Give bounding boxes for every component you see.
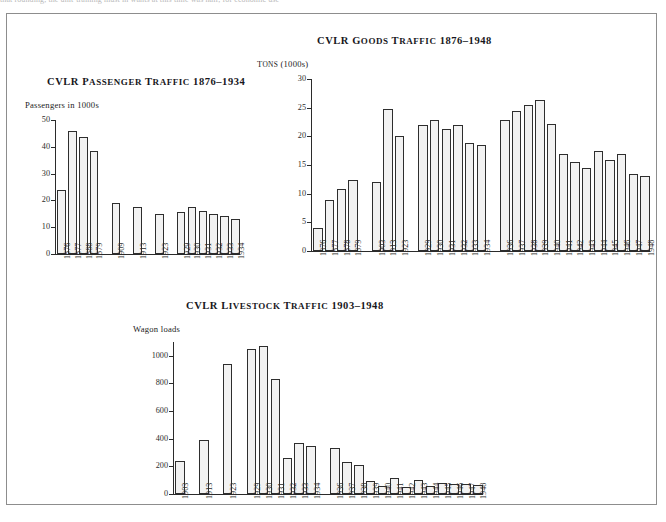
goods-y-tick-label: 30 — [298, 75, 306, 83]
bar — [453, 125, 462, 251]
livestock-title-word: TRAFFIC — [283, 300, 328, 311]
passenger-title-word: TRAFFIC — [145, 76, 190, 87]
passenger-x-tick-label: 1929 — [184, 243, 192, 259]
goods-y-tick — [307, 251, 311, 252]
goods-x-tick-label: 1931 — [449, 240, 457, 256]
passenger-plot-area: 0102030405018761877188818791909191319231… — [55, 120, 240, 254]
livestock-x-tick-label: 1936 — [337, 483, 345, 499]
bar — [465, 143, 474, 251]
passenger-x-tick-label: 1934 — [238, 243, 246, 259]
bar — [395, 136, 404, 251]
goods-y-tick — [307, 222, 311, 223]
goods-title-word: CVLR — [317, 35, 349, 46]
passenger-x-tick-label: 1931 — [205, 243, 213, 259]
bar — [477, 145, 486, 251]
livestock-y-tick — [169, 356, 173, 357]
bar — [223, 364, 233, 494]
bar — [605, 160, 614, 251]
livestock-y-tick-label: 0 — [164, 490, 168, 498]
passenger-y-tick-label: 10 — [42, 223, 50, 231]
passenger-y-tick-label: 0 — [46, 250, 50, 258]
goods-x-tick-label: 1940 — [554, 240, 562, 256]
livestock-x-tick-label: 1933 — [302, 483, 310, 499]
passenger-x-tick-label: 1877 — [75, 243, 83, 259]
bar — [79, 137, 88, 254]
passenger-x-tick-label: 1888 — [86, 243, 94, 259]
bar — [570, 162, 579, 251]
goods-x-tick-label: 1929 — [425, 240, 433, 256]
goods-x-tick-label: 1876 — [320, 240, 328, 256]
livestock-x-tick-label: 1934 — [314, 483, 322, 499]
clipped-running-text: that rounding, the unit-training must in… — [0, 0, 666, 9]
livestock-x-tick-label: 1947 — [469, 483, 477, 499]
goods-y-tick — [307, 79, 311, 80]
bar — [524, 105, 533, 251]
passenger-x-tick-label: 1913 — [140, 243, 148, 259]
bar — [617, 154, 626, 251]
livestock-y-tick-label: 400 — [156, 435, 168, 443]
livestock-y-tick-label: 200 — [156, 462, 168, 470]
passenger-y-tick — [51, 254, 55, 255]
livestock-x-tick-label: 1939 — [373, 483, 381, 499]
goods-x-tick-label: 1930 — [437, 240, 445, 256]
passenger-y-tick-label: 20 — [42, 196, 50, 204]
goods-x-tick-label: 1877 — [332, 240, 340, 256]
passenger-title-word: 1876–1934 — [193, 76, 245, 87]
goods-y-tick-label: 20 — [298, 132, 306, 140]
bar — [559, 154, 568, 251]
goods-x-tick-label: 1941 — [566, 240, 574, 256]
bar — [582, 168, 591, 251]
livestock-y-tick — [169, 411, 173, 412]
goods-x-tick-label: 1947 — [636, 240, 644, 256]
livestock-y-tick-label: 800 — [156, 379, 168, 387]
figure-goods-traffic: CVLR GOODS TRAFFIC 1876–1948 TONS (1000s… — [292, 14, 658, 284]
passenger-chart-title: CVLR PASSENGER TRAFFIC 1876–1934 — [47, 76, 245, 87]
livestock-x-tick-label: 1938 — [361, 483, 369, 499]
goods-x-tick-label: 1936 — [507, 240, 515, 256]
figure-livestock-traffic: CVLR LIVESTOCK TRAFFIC 1903–1948 Wagon l… — [111, 286, 561, 506]
livestock-x-tick-label: 1943 — [421, 483, 429, 499]
bar — [430, 120, 439, 251]
goods-x-tick-label: 1913 — [390, 240, 398, 256]
goods-y-tick-label: 25 — [298, 104, 306, 112]
clipped-running-text-value: that rounding, the unit-training must in… — [0, 0, 279, 4]
goods-x-tick-label: 1946 — [624, 240, 632, 256]
livestock-y-tick-label: 600 — [156, 407, 168, 415]
goods-y-tick-label: 0 — [302, 247, 306, 255]
passenger-y-tick-label: 40 — [42, 143, 50, 151]
goods-y-tick — [307, 108, 311, 109]
bar — [90, 151, 99, 254]
goods-x-tick-label: 1943 — [589, 240, 597, 256]
bar — [594, 151, 603, 251]
goods-x-tick-label: 1923 — [402, 240, 410, 256]
goods-x-tick-label: 1938 — [531, 240, 539, 256]
livestock-title-word: LIVESTOCK — [221, 300, 280, 311]
passenger-y-tick-label: 50 — [42, 116, 50, 124]
bar — [383, 109, 392, 251]
passenger-y-tick — [51, 120, 55, 121]
passenger-x-tick-label: 1932 — [216, 243, 224, 259]
bar — [535, 100, 544, 251]
passenger-x-tick-label: 1933 — [227, 243, 235, 259]
passenger-y-tick-label: 30 — [42, 169, 50, 177]
passenger-title-word: PASSENGER — [82, 76, 142, 87]
figure-page-frame: CVLR PASSENGER TRAFFIC 1876–1934 Passeng… — [6, 13, 657, 505]
goods-y-tick — [307, 165, 311, 166]
livestock-x-tick-label: 1948 — [480, 483, 488, 499]
passenger-title-word: CVLR — [47, 76, 79, 87]
livestock-plot-area: 0200400600800100019031913192319291930193… — [173, 342, 483, 494]
livestock-y-tick-label: 1000 — [152, 352, 168, 360]
goods-x-tick-label: 1944 — [601, 240, 609, 256]
livestock-title-word: 1903–1948 — [332, 300, 384, 311]
bar — [247, 349, 257, 494]
goods-x-tick-label: 1948 — [648, 240, 656, 256]
goods-y-tick-label: 10 — [298, 190, 306, 198]
goods-x-tick-label: 1939 — [542, 240, 550, 256]
bar — [271, 379, 281, 494]
passenger-x-tick-label: 1879 — [96, 243, 104, 259]
livestock-y-tick — [169, 383, 173, 384]
livestock-title-word: CVLR — [186, 300, 218, 311]
goods-x-tick-label: 1934 — [484, 240, 492, 256]
goods-x-tick-label: 1903 — [379, 240, 387, 256]
passenger-x-tick-label: 1876 — [64, 243, 72, 259]
